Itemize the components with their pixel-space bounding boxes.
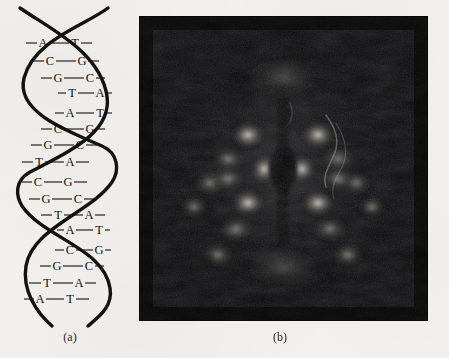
base-pair-row: CG bbox=[55, 243, 111, 257]
base-letter-left: C bbox=[46, 54, 54, 68]
base-letter-right: G bbox=[85, 122, 94, 136]
base-pair-row: CG bbox=[33, 54, 99, 68]
base-pair-row: TA bbox=[41, 208, 105, 222]
base-letter-right: T bbox=[66, 292, 74, 306]
base-letter-right: T bbox=[95, 223, 103, 237]
base-letter-left: C bbox=[66, 243, 74, 257]
dna-strand-front bbox=[18, 8, 111, 326]
base-letter-left: G bbox=[41, 192, 50, 206]
base-letter-right: C bbox=[76, 138, 84, 152]
base-letter-left: C bbox=[54, 122, 62, 136]
base-letter-left: A bbox=[38, 36, 47, 50]
base-letter-right: G bbox=[77, 54, 86, 68]
base-letter-right: A bbox=[65, 155, 74, 169]
base-letter-right: C bbox=[85, 259, 93, 273]
figure-container: ATCGGCTAATCGGCTACGGCTAATCGGCTAAT bbox=[0, 0, 449, 358]
base-pair-row: AT bbox=[57, 223, 110, 237]
base-letter-right: C bbox=[74, 192, 82, 206]
base-pair-row: GC bbox=[29, 192, 95, 206]
base-pair-row: GC bbox=[41, 71, 105, 85]
base-letter-left: A bbox=[65, 106, 74, 120]
base-letter-left: T bbox=[35, 155, 43, 169]
base-letter-left: T bbox=[68, 86, 76, 100]
caption-panel-b: (b) bbox=[250, 330, 310, 345]
base-letter-left: G bbox=[53, 71, 62, 85]
base-letter-right: A bbox=[74, 276, 83, 290]
base-letter-right: A bbox=[84, 208, 93, 222]
panel-b-diffraction-photo bbox=[140, 17, 427, 320]
caption-panel-a: (a) bbox=[40, 330, 100, 345]
panel-a-dna-helix: ATCGGCTAATCGGCTACGGCTAATCGGCTAAT bbox=[0, 0, 140, 330]
base-letter-left: A bbox=[35, 292, 44, 306]
x-ray-diffraction-pattern bbox=[140, 17, 427, 320]
base-letter-left: G bbox=[43, 138, 52, 152]
base-letter-right: T bbox=[71, 36, 79, 50]
dna-helix-drawing: ATCGGCTAATCGGCTACGGCTAATCGGCTAAT bbox=[0, 0, 140, 330]
base-pair-row: TA bbox=[58, 86, 112, 100]
base-pair-row: CG bbox=[22, 175, 87, 189]
film-grain bbox=[140, 17, 427, 320]
base-pair-row: TA bbox=[29, 276, 96, 290]
base-letter-left: C bbox=[34, 175, 42, 189]
base-letter-right: C bbox=[86, 71, 94, 85]
base-letter-left: G bbox=[52, 259, 61, 273]
base-letter-left: A bbox=[65, 223, 74, 237]
base-letter-right: G bbox=[94, 243, 103, 257]
base-letter-left: T bbox=[54, 208, 62, 222]
base-letter-left: T bbox=[43, 276, 51, 290]
base-letter-right: T bbox=[96, 106, 104, 120]
base-pair-row: AT bbox=[55, 106, 112, 120]
base-letter-right: G bbox=[63, 175, 72, 189]
base-letter-right: A bbox=[95, 86, 104, 100]
